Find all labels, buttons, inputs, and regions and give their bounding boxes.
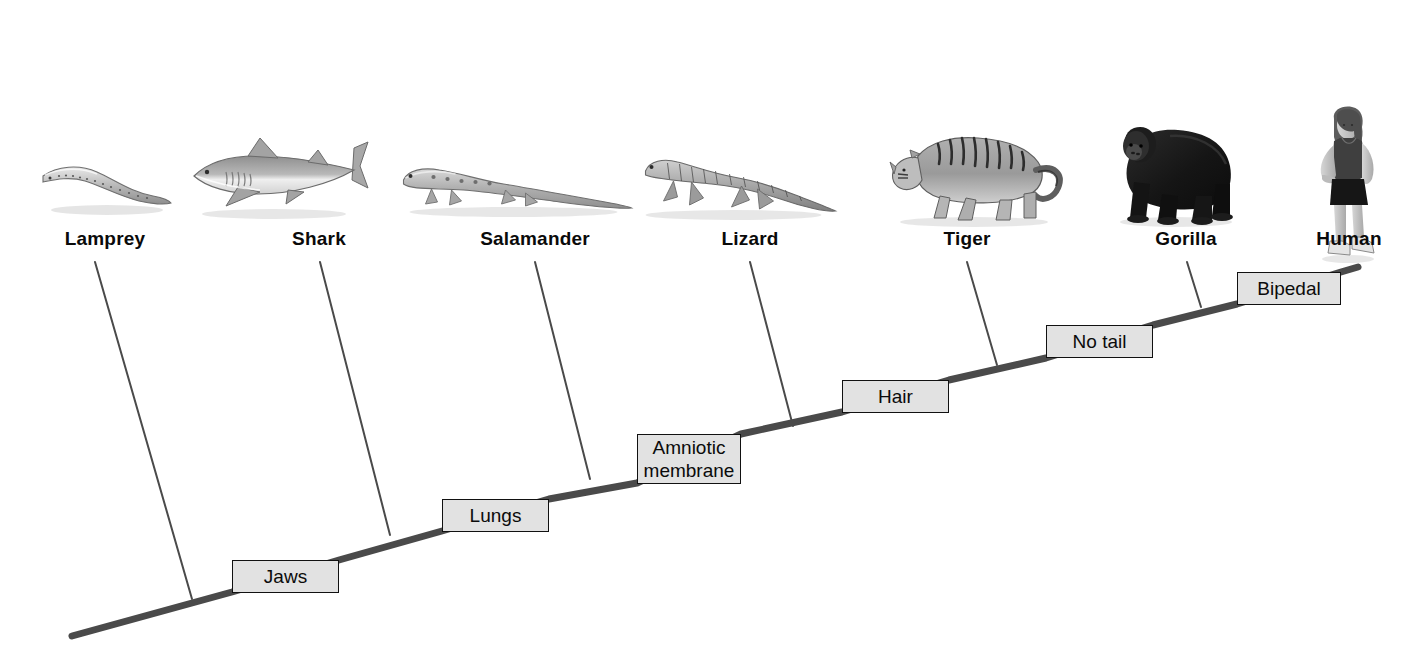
- branch-lines: [95, 262, 1201, 599]
- trait-label-lungs: Lungs: [470, 504, 522, 527]
- trait-box-no-tail[interactable]: No tail: [1046, 325, 1153, 358]
- trait-box-bipedal[interactable]: Bipedal: [1237, 272, 1341, 305]
- branch-gorilla: [1187, 262, 1201, 307]
- trait-label-bipedal: Bipedal: [1257, 277, 1320, 300]
- branch-shark: [320, 262, 390, 535]
- branch-lamprey: [95, 262, 192, 599]
- trait-label-amniotic-line1: Amniotic: [653, 436, 726, 459]
- trait-label-hair: Hair: [878, 385, 913, 408]
- branch-tiger: [967, 262, 997, 365]
- trait-box-hair[interactable]: Hair: [842, 380, 949, 413]
- trait-label-jaws: Jaws: [264, 565, 307, 588]
- branch-lizard: [750, 262, 793, 426]
- phylogeny-lines: [0, 0, 1419, 671]
- trait-box-amniotic-membrane[interactable]: Amniotic membrane: [637, 434, 741, 484]
- trait-label-no-tail: No tail: [1073, 330, 1127, 353]
- trait-label-amniotic-line2: membrane: [644, 459, 735, 482]
- trait-box-lungs[interactable]: Lungs: [442, 499, 549, 532]
- cladogram-canvas: Lamprey Shark Salamander Lizard Tiger Go…: [0, 0, 1419, 671]
- trait-box-jaws[interactable]: Jaws: [232, 560, 339, 593]
- branch-salamander: [535, 262, 590, 479]
